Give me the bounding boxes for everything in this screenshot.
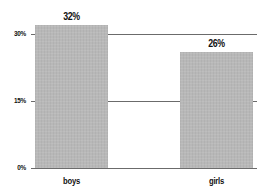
ytick-label-0: 0% (7, 163, 26, 172)
bar-boys (35, 25, 108, 168)
xtick-label-boys: boys (40, 176, 102, 186)
xtick-label-girls: girls (185, 176, 247, 186)
value-label-girls: 26% (187, 37, 245, 49)
ytick-label-30: 30% (7, 29, 26, 38)
gridline-0 (31, 168, 257, 169)
ytick-label-15: 15% (7, 96, 26, 105)
bar-chart: 30% 15% 0% 32% 26% boys girls (0, 0, 270, 194)
value-label-boys: 32% (42, 10, 100, 22)
bar-girls (180, 52, 253, 168)
